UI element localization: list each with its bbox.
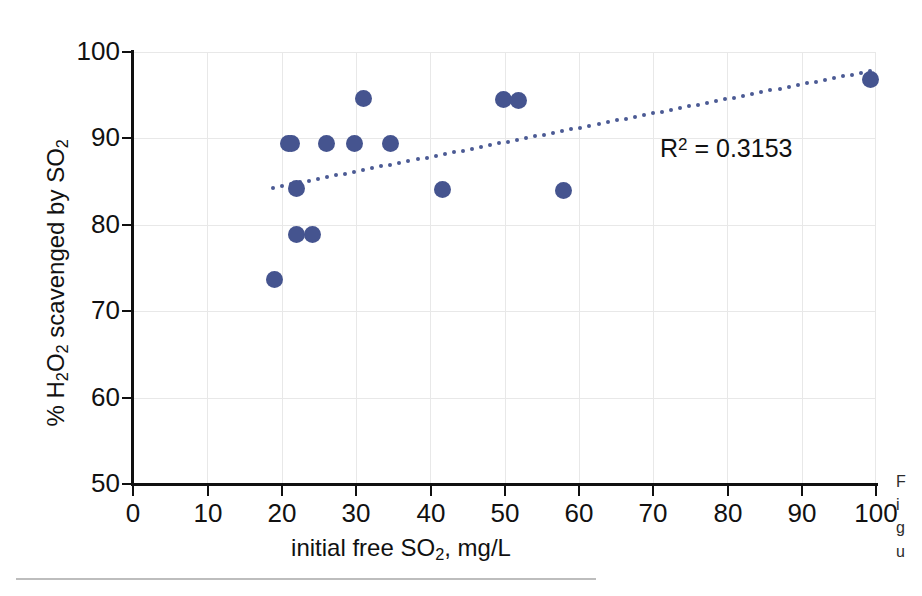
x-tick-label: 0 [93, 500, 173, 526]
y-axis-title-p3: scavenged by SO [42, 148, 69, 344]
trendline-dot [669, 108, 673, 112]
trendline-dot [515, 138, 519, 142]
x-axis-tick [578, 486, 580, 496]
trendline-dot [660, 110, 664, 114]
x-axis-tick [875, 486, 877, 496]
gridline-horizontal [133, 398, 876, 399]
data-point [318, 135, 335, 152]
y-axis-tick [122, 397, 133, 399]
gridline-vertical [430, 52, 431, 484]
gridline-vertical [505, 52, 506, 484]
trendline-dot [542, 133, 546, 137]
gridline-vertical [802, 52, 803, 484]
x-axis-tick [355, 486, 357, 496]
trendline-dot [388, 163, 392, 167]
x-tick-label: 20 [242, 500, 322, 526]
x-axis-tick [132, 486, 134, 496]
trendline-dot [705, 101, 709, 105]
trendline-dot [578, 126, 582, 130]
x-axis-title: initial free SO2, mg/L [0, 534, 922, 564]
data-point [283, 135, 300, 152]
gridline-vertical [653, 52, 654, 484]
data-point [288, 180, 305, 197]
x-axis-title-post: , mg/L [444, 534, 511, 561]
trendline-dot [551, 131, 555, 135]
gridline-vertical [727, 52, 728, 484]
trendline-dot [343, 172, 347, 176]
trendline-dot [841, 74, 845, 78]
data-point [266, 271, 283, 288]
x-tick-label: 40 [391, 500, 471, 526]
trendline-dot [787, 85, 791, 89]
trendline-dot [678, 106, 682, 110]
x-axis-tick [801, 486, 803, 496]
trendline-dot [416, 157, 420, 161]
trendline-dot [370, 166, 374, 170]
y-axis-title-p2: O [42, 353, 69, 372]
trendline-dot [805, 81, 809, 85]
trendline-dot [406, 159, 410, 163]
x-axis-title-pre: initial free SO [291, 534, 435, 561]
trendline-dot [452, 150, 456, 154]
x-axis-tick [207, 486, 209, 496]
page-margin-note: Figu [896, 470, 922, 563]
trendline-dot [334, 173, 338, 177]
trendline-dot [397, 161, 401, 165]
trendline-dot [316, 177, 320, 181]
trendline-dot [615, 118, 619, 122]
x-axis-tick [430, 486, 432, 496]
trendline-dot [651, 111, 655, 115]
trendline-dot [714, 99, 718, 103]
trendline-dot [443, 152, 447, 156]
data-point [510, 92, 527, 109]
trendline-dot [768, 88, 772, 92]
r-squared-value: = 0.3153 [688, 134, 793, 162]
trendline-dot [488, 143, 492, 147]
gridline-horizontal [133, 225, 876, 226]
trendline-dot [696, 103, 700, 107]
trendline-dot [434, 154, 438, 158]
x-tick-label: 80 [688, 500, 768, 526]
trendline-dot [461, 149, 465, 153]
gridline-vertical [875, 52, 876, 484]
y-axis-tick [122, 51, 133, 53]
trendline-dot [569, 127, 573, 131]
y-axis-title-s2: 2 [53, 344, 71, 353]
data-point [862, 71, 879, 88]
trendline-dot [379, 164, 383, 168]
trendline-dot [506, 140, 510, 144]
trendline-dot [479, 145, 483, 149]
gridline-horizontal [133, 311, 876, 312]
y-axis-title: % H2O2 scavenged by SO2 [42, 48, 72, 518]
data-point [304, 226, 321, 243]
x-tick-label: 60 [539, 500, 619, 526]
plot-area [133, 52, 876, 484]
x-axis-tick [504, 486, 506, 496]
page-divider-rule [16, 578, 596, 580]
y-axis-title-s3: 2 [53, 139, 71, 148]
y-axis-tick [122, 137, 133, 139]
trendline-dot [325, 175, 329, 179]
trendline-dot [832, 76, 836, 80]
data-point [555, 182, 572, 199]
data-point [288, 226, 305, 243]
trendline-dot [633, 115, 637, 119]
trendline-dot [732, 96, 736, 100]
trendline-dot [352, 170, 356, 174]
chart-figure: 100 90 80 70 60 50 0 10 20 30 40 50 60 7… [0, 0, 922, 596]
trendline-dot [778, 87, 782, 91]
x-axis-tick [281, 486, 283, 496]
data-point [346, 135, 363, 152]
trendline-dot [597, 122, 601, 126]
data-point [434, 181, 451, 198]
trendline-dot [687, 104, 691, 108]
y-axis-title-s1: 2 [53, 372, 71, 381]
trendline-dot [470, 147, 474, 151]
trendline-dot [741, 94, 745, 98]
gridline-vertical [207, 52, 208, 484]
x-tick-label: 90 [762, 500, 842, 526]
trendline-dot [606, 120, 610, 124]
trendline-dot [587, 124, 591, 128]
data-point [355, 90, 372, 107]
trendline-dot [796, 83, 800, 87]
